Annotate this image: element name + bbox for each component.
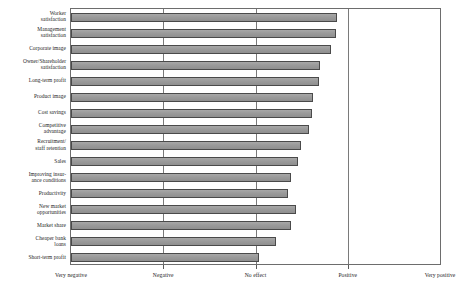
bar [71, 205, 296, 214]
bar-row [71, 205, 442, 214]
category-label: Owner/Shareholder satisfaction [0, 58, 66, 70]
bar [71, 189, 288, 198]
bar-row [71, 141, 442, 150]
x-axis-label: Very negative [55, 272, 87, 279]
bar-row [71, 29, 442, 38]
bar [71, 173, 291, 182]
category-label: Cheaper bank loans [0, 235, 66, 247]
bar [71, 61, 320, 70]
category-label: Short-term profit [0, 254, 66, 260]
x-axis-label: Very positive [425, 272, 456, 279]
category-label: Management satisfaction [0, 26, 66, 38]
bar-row [71, 221, 442, 230]
bar [71, 253, 259, 262]
bar-row [71, 173, 442, 182]
plot-area [70, 8, 441, 265]
bar-row [71, 93, 442, 102]
category-label: Sales [0, 158, 66, 164]
bar [71, 93, 313, 102]
x-axis-label: No effect [245, 272, 267, 279]
bar-row [71, 13, 442, 22]
bar [71, 125, 309, 134]
x-axis-tick [256, 265, 257, 269]
bar [71, 237, 276, 246]
bar [71, 221, 291, 230]
bar [71, 141, 301, 150]
category-label: Corporate image [0, 45, 66, 51]
bar [71, 29, 336, 38]
category-label: Competitive advantage [0, 122, 66, 134]
bar [71, 157, 298, 166]
bar-row [71, 189, 442, 198]
bar-row [71, 253, 442, 262]
bar-row [71, 61, 442, 70]
bar-row [71, 237, 442, 246]
category-label: Productivity [0, 190, 66, 196]
bar [71, 45, 331, 54]
bar [71, 77, 319, 86]
bar-chart-figure: Worker satisfactionManagement satisfacti… [0, 0, 464, 289]
x-axis-tick [163, 265, 164, 269]
category-label: Product image [0, 93, 66, 99]
category-axis: Worker satisfactionManagement satisfacti… [0, 8, 68, 265]
x-axis-label: Negative [153, 272, 174, 279]
bar-row [71, 77, 442, 86]
category-label: New market opportunities [0, 203, 66, 215]
category-label: Cost savings [0, 109, 66, 115]
category-label: Improving insur- ance conditions [0, 171, 66, 183]
bar [71, 13, 337, 22]
bar-row [71, 157, 442, 166]
bar-row [71, 109, 442, 118]
category-label: Recruitment/ staff retention [0, 138, 66, 150]
bar-row [71, 125, 442, 134]
x-axis-tick [348, 265, 349, 269]
bar-row [71, 45, 442, 54]
category-label: Long-term profit [0, 77, 66, 83]
bar [71, 109, 312, 118]
x-axis-label: Positive [338, 272, 357, 279]
category-label: Market share [0, 222, 66, 228]
category-label: Worker satisfaction [0, 10, 66, 22]
